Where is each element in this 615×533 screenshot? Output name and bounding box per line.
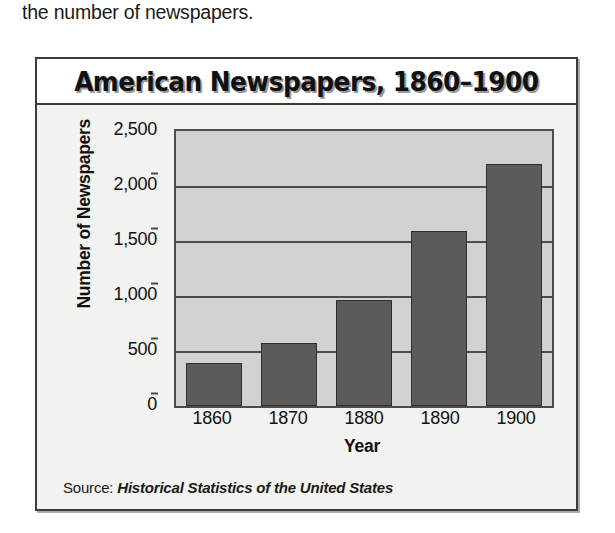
chart-title-band: American Newspapers, 1860–1900 xyxy=(37,59,576,105)
bar-1890 xyxy=(411,231,467,406)
chart-body: Number of Newspapers 2,500 2,000 1,500 1… xyxy=(37,105,576,509)
x-axis-title: Year xyxy=(174,436,550,457)
y-tick-mark xyxy=(151,173,158,175)
chart-title: American Newspapers, 1860–1900 xyxy=(74,66,538,97)
source-note: Source: Historical Statistics of the Uni… xyxy=(63,479,393,496)
bar-1900 xyxy=(486,164,542,406)
bars-layer xyxy=(176,131,552,406)
y-tick-label: 1,000 xyxy=(113,284,157,305)
y-tick-label: 2,000 xyxy=(113,174,157,195)
x-tick-label: 1900 xyxy=(479,408,553,429)
x-tick-label: 1870 xyxy=(251,408,325,429)
y-tick-label: 1,500 xyxy=(113,229,157,250)
chart-figure: American Newspapers, 1860–1900 Number of… xyxy=(35,57,578,511)
x-axis-tick-labels: 1860 1870 1880 1890 1900 xyxy=(174,408,554,434)
y-tick-mark xyxy=(151,228,158,230)
bar-1870 xyxy=(261,343,317,406)
source-title: Historical Statistics of the United Stat… xyxy=(117,479,393,496)
x-tick-label: 1890 xyxy=(403,408,477,429)
y-axis-tick-labels: 2,500 2,000 1,500 1,000 500 0 xyxy=(85,105,163,509)
plot-area xyxy=(174,129,554,408)
bar-1880 xyxy=(336,300,392,406)
bar-1860 xyxy=(186,363,242,406)
y-tick-mark xyxy=(151,338,158,340)
y-tick-mark xyxy=(151,393,158,395)
y-tick-mark xyxy=(151,283,158,285)
y-tick-label: 500 xyxy=(128,339,157,360)
intro-paragraph: the number of newspapers. xyxy=(22,1,253,24)
y-tick-label: 0 xyxy=(147,394,157,415)
x-tick-label: 1860 xyxy=(175,408,249,429)
x-tick-label: 1880 xyxy=(327,408,401,429)
source-prefix: Source: xyxy=(63,479,113,496)
y-tick-label: 2,500 xyxy=(113,119,157,140)
